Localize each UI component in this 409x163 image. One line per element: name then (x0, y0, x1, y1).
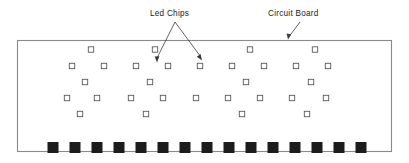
contact-pad (356, 142, 367, 153)
contact-pad (92, 142, 103, 153)
led-chip (229, 63, 234, 68)
led-chip (193, 95, 198, 100)
led-chip (128, 95, 133, 100)
contact-pad (158, 142, 169, 153)
contact-pads-layer (48, 142, 367, 153)
circuit-board-leader-line (290, 22, 301, 36)
led-chip (165, 63, 170, 68)
contact-pad (180, 142, 191, 153)
contact-pad (246, 142, 257, 153)
circuit-board-leader-group (287, 22, 300, 40)
led-chip (323, 95, 328, 100)
led-chip (94, 95, 99, 100)
led-chip (243, 79, 248, 84)
led-chip (308, 79, 313, 84)
led-chip (133, 63, 138, 68)
contact-pad (202, 142, 213, 153)
led-chip (247, 47, 252, 52)
led-chip (101, 63, 106, 68)
led-chip (143, 111, 148, 116)
circuit-board-label: Circuit Board (268, 9, 319, 18)
led-chip (152, 47, 157, 52)
contact-pad (334, 142, 345, 153)
led-chip (257, 95, 262, 100)
led-chip (325, 63, 330, 68)
contact-pad (114, 142, 125, 153)
led-chip (225, 95, 230, 100)
led-chip (77, 111, 82, 116)
contact-pad (224, 142, 235, 153)
circuit-board-outline (18, 41, 392, 152)
led-chip (261, 63, 266, 68)
led-chip (82, 79, 87, 84)
led-chip (64, 95, 69, 100)
contact-pad (136, 142, 147, 153)
led-chip (160, 95, 165, 100)
led-chip (69, 63, 74, 68)
contact-pad (70, 142, 81, 153)
led-circuit-board-figure: Led Chips Circuit Board (0, 0, 409, 163)
contact-pad (290, 142, 301, 153)
led-chip (147, 79, 152, 84)
led-chip (88, 47, 93, 52)
led-chip (239, 111, 244, 116)
contact-pad (312, 142, 323, 153)
led-chip (304, 111, 309, 116)
led-chip (293, 63, 298, 68)
led-chips-label: Led Chips (150, 9, 189, 18)
contact-pad (48, 142, 59, 153)
diagram-canvas: Led Chips Circuit Board (0, 0, 409, 163)
led-chip (289, 95, 294, 100)
led-chip (197, 63, 202, 68)
contact-pad (268, 142, 279, 153)
led-chip (312, 47, 317, 52)
